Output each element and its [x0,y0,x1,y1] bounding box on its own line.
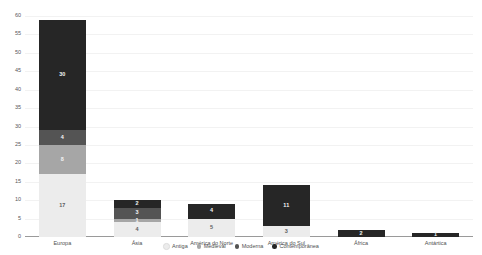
bar-segment-value: 4 [61,135,64,141]
legend-swatch-icon [272,244,277,249]
bar-segment-value: 17 [59,203,65,209]
bar-group-america-do-sul[interactable]: 113América do Sul [249,16,324,237]
bar-group-asia[interactable]: 2314Ásia [100,16,175,237]
bar-segment-europa-medieval[interactable]: 8 [39,145,86,174]
bar-segment-antartica-contemporanea[interactable]: 1 [412,233,459,237]
bar-group-america-do-norte[interactable]: 45América do Norte [174,16,249,237]
legend-label: Moderna [242,244,264,250]
bar-segment-value: 11 [283,203,289,209]
plot-area: 051015202530354045505560 304817Europa231… [25,16,473,237]
bar-segment-america-do-sul-antiga[interactable]: 3 [263,226,310,237]
bar-segment-value: 5 [210,225,213,231]
y-axis-tick-label: 10 [15,197,21,203]
legend-label: Contemporânea [279,244,318,250]
bar-segment-value: 1 [434,232,437,238]
bar-stack: 45 [188,204,235,237]
legend-item-contemporanea[interactable]: Contemporânea [272,244,318,250]
y-axis-tick-label: 60 [15,13,21,19]
bar-segment-value: 3 [285,229,288,235]
bar-segment-america-do-sul-contemporanea[interactable]: 11 [263,185,310,226]
legend-swatch-icon [163,243,170,250]
bar-segment-america-do-norte-antiga[interactable]: 5 [188,219,235,237]
legend-item-antiga[interactable]: Antiga [163,243,188,250]
legend-label: Medieval [204,244,226,250]
bar-group-europa[interactable]: 304817Europa [25,16,100,237]
bar-segment-value: 8 [61,157,64,163]
bar-stack: 2 [338,230,385,237]
bar-segment-asia-antiga[interactable]: 4 [114,222,161,237]
y-axis-tick-label: 30 [15,124,21,130]
bar-stack: 304817 [39,20,86,237]
y-axis-tick-label: 0 [18,234,21,240]
bar-stack: 113 [263,185,310,237]
bar-segment-value: 2 [359,231,362,237]
legend-item-medieval[interactable]: Medieval [197,244,226,250]
chart-title [0,0,482,5]
legend-label: Antiga [172,244,188,250]
stacked-bar-chart: 051015202530354045505560 304817Europa231… [0,0,482,255]
y-axis-tick-label: 20 [15,161,21,167]
bar-stack: 2314 [114,200,161,237]
bar-segment-america-do-norte-contemporanea[interactable]: 4 [188,204,235,219]
bar-group-antartica[interactable]: 1Antártica [398,16,473,237]
chart-legend: AntigaMedievalModernaContemporânea [0,243,482,250]
legend-item-moderna[interactable]: Moderna [235,244,264,250]
bar-segment-africa-contemporanea[interactable]: 2 [338,230,385,237]
y-axis-tick-label: 25 [15,142,21,148]
y-axis-tick-label: 40 [15,87,21,93]
y-axis-tick-label: 45 [15,69,21,75]
bar-segment-europa-antiga[interactable]: 17 [39,174,86,237]
bars-layer: 304817Europa2314Ásia45América do Norte11… [25,16,473,237]
legend-swatch-icon [197,244,202,249]
bar-segment-europa-moderna[interactable]: 4 [39,130,86,145]
bar-segment-value: 30 [59,72,65,78]
bar-segment-value: 2 [135,201,138,207]
y-axis-tick-label: 15 [15,179,21,185]
bar-segment-value: 3 [135,210,138,216]
y-axis-tick-label: 50 [15,50,21,56]
y-axis-tick-label: 5 [18,216,21,222]
y-axis-tick-label: 35 [15,105,21,111]
bar-group-africa[interactable]: 2África [324,16,399,237]
bar-segment-value: 4 [135,227,138,233]
y-axis-tick-label: 55 [15,32,21,38]
bar-segment-europa-contemporanea[interactable]: 30 [39,20,86,131]
legend-swatch-icon [235,244,240,249]
bar-stack: 1 [412,233,459,237]
bar-segment-value: 4 [210,208,213,214]
bar-segment-asia-contemporanea[interactable]: 2 [114,200,161,207]
